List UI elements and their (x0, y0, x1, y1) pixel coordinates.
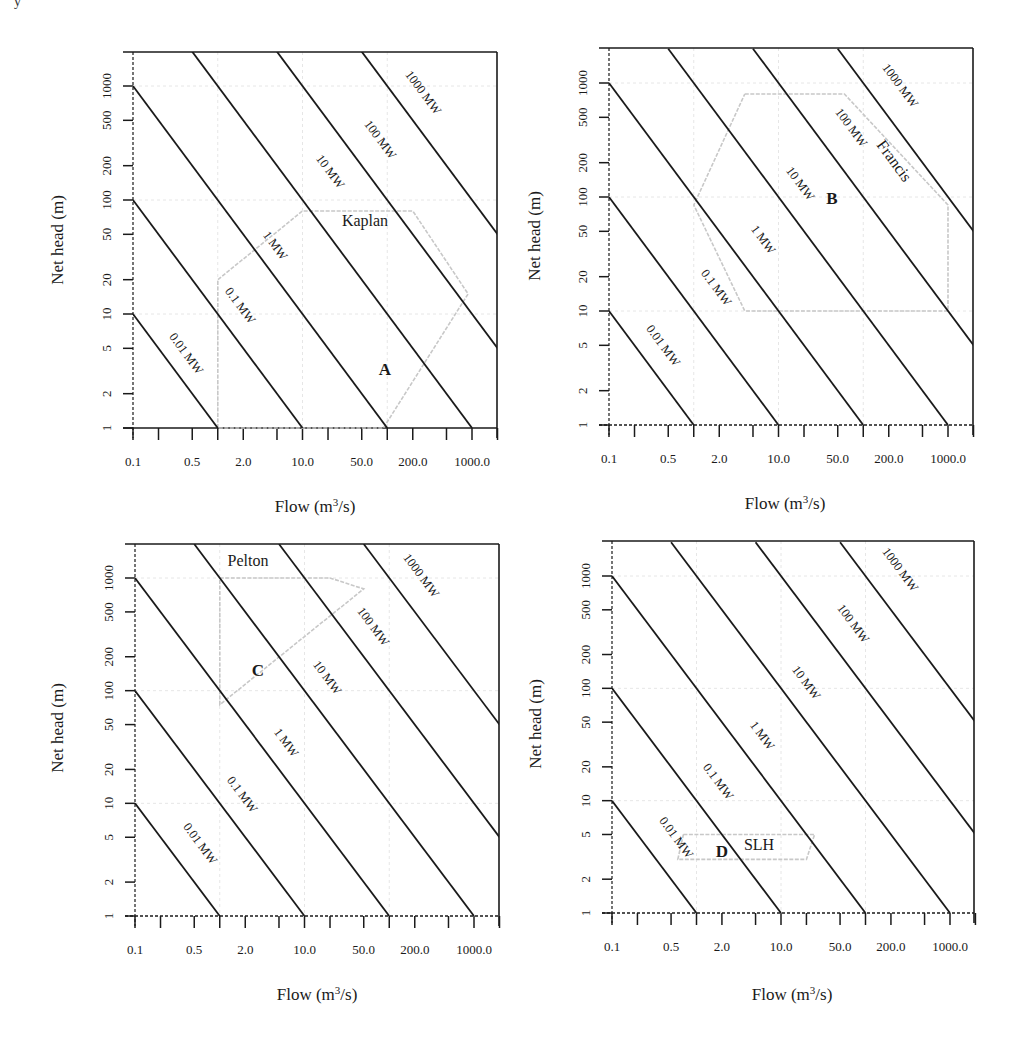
power-line-label: 1000 MW (400, 551, 442, 600)
x-tick-label: 200.0 (398, 454, 427, 469)
power-line-label: 0.01 MW (180, 820, 220, 867)
panel-letter: B (826, 189, 837, 208)
y-tick-label: 20 (575, 270, 590, 283)
x-tick-label: 0.1 (125, 454, 141, 469)
power-line-label: 0.1 MW (698, 267, 734, 309)
y-tick-label: 500 (575, 108, 590, 128)
y-tick-label: 5 (575, 342, 590, 349)
panel-letter: C (252, 661, 264, 680)
y-tick-label: 100 (578, 679, 593, 699)
x-tick-label: 50.0 (829, 939, 852, 954)
power-line-label: 0.1 MW (700, 761, 736, 803)
panel-c: 12510205010020050010000.10.52.010.050.02… (48, 544, 500, 1004)
panel-letter: A (379, 360, 392, 379)
y-tick-label: 5 (578, 831, 593, 838)
x-axis-title: Flow (m3/s) (745, 493, 826, 513)
y-tick-label: 10 (99, 308, 114, 321)
y-tick-label: 1 (575, 422, 590, 429)
x-axis-title: Flow (m3/s) (752, 984, 833, 1004)
y-tick-label: 500 (578, 600, 593, 620)
x-tick-label: 0.5 (184, 454, 200, 469)
x-tick-label: 0.5 (660, 451, 676, 466)
x-tick-label: 0.5 (663, 939, 679, 954)
y-tick-label: 10 (101, 797, 116, 810)
power-line-label: 100 MW (834, 601, 872, 645)
y-tick-label: 1000 (578, 563, 593, 589)
turbine-region-francis (694, 94, 948, 311)
y-tick-label: 100 (101, 681, 116, 701)
y-tick-label: 5 (99, 345, 114, 352)
y-tick-label: 200 (101, 647, 116, 667)
x-tick-label: 200.0 (876, 939, 905, 954)
x-tick-label: 10.0 (293, 942, 316, 957)
power-line-10-mw (671, 542, 950, 913)
y-tick-label: 2 (575, 387, 590, 394)
region-name-label: Kaplan (342, 212, 388, 230)
corner-mark: y (14, 0, 21, 10)
y-tick-label: 1000 (101, 565, 116, 591)
power-line-label: 1 MW (747, 718, 778, 752)
power-lines (135, 544, 500, 916)
x-tick-label: 1000.0 (930, 451, 966, 466)
power-lines (609, 49, 974, 425)
y-tick-label: 200 (99, 156, 114, 176)
y-tick-label: 50 (578, 716, 593, 729)
power-line-label: 1000 MW (879, 545, 921, 594)
x-tick-label: 1000.0 (454, 454, 490, 469)
power-line-label: 1 MW (260, 228, 291, 262)
x-tick-label: 1000.0 (932, 939, 968, 954)
x-tick-label: 10.0 (767, 451, 790, 466)
y-tick-label: 500 (99, 111, 114, 130)
y-tick-label: 20 (99, 273, 114, 286)
panel-d: 12510205010020050010000.10.52.010.050.02… (526, 541, 975, 1004)
x-tick-label: 0.1 (604, 939, 620, 954)
y-tick-label: 10 (575, 305, 590, 318)
power-line-label: 0.01 MW (656, 814, 696, 861)
y-tick-label: 1 (578, 910, 593, 917)
panel-letter: D (716, 842, 728, 861)
x-tick-label: 50.0 (352, 942, 375, 957)
power-line-label: 100 MW (832, 105, 870, 149)
power-line-label: 10 MW (789, 663, 823, 702)
y-axis-title: Net head (m) (48, 683, 67, 773)
chart-canvas: 12510205010020050010000.10.52.010.050.02… (0, 0, 1025, 1050)
region-name-label: SLH (744, 836, 775, 853)
power-line-label: 10 MW (313, 152, 347, 191)
x-tick-label: 2.0 (235, 454, 251, 469)
power-line-label: 1000 MW (879, 61, 921, 110)
x-axis-title: Flow (m3/s) (277, 984, 358, 1004)
y-tick-label: 500 (101, 602, 116, 622)
x-axis-title: Flow (m3/s) (275, 496, 356, 516)
y-tick-label: 50 (575, 225, 590, 238)
y-tick-label: 5 (101, 834, 116, 841)
y-tick-label: 1 (101, 913, 116, 920)
x-tick-label: 0.1 (127, 942, 143, 957)
power-line-label: 0.1 MW (222, 285, 258, 327)
power-line-label: 1000 MW (402, 68, 444, 117)
y-tick-label: 2 (101, 879, 116, 886)
y-tick-label: 100 (99, 190, 114, 210)
y-tick-label: 50 (99, 228, 114, 241)
power-line-label: 100 MW (361, 117, 399, 161)
x-tick-label: 2.0 (711, 451, 727, 466)
x-tick-label: 1000.0 (456, 942, 492, 957)
y-tick-label: 1 (99, 425, 114, 432)
figure: y 12510205010020050010000.10.52.010.050.… (0, 0, 1025, 1050)
y-axis-title: Net head (m) (526, 679, 545, 769)
x-tick-label: 50.0 (826, 451, 849, 466)
y-tick-label: 100 (575, 187, 590, 207)
y-axis-title: Net head (m) (48, 195, 67, 285)
y-tick-label: 2 (578, 876, 593, 883)
power-line-label: 0.1 MW (224, 774, 260, 816)
power-lines (612, 542, 975, 913)
y-tick-label: 10 (578, 794, 593, 807)
y-axis-title: Net head (m) (525, 191, 544, 281)
power-line-1-mw (135, 578, 389, 916)
power-line-1-mw (609, 83, 863, 425)
power-line-label: 10 MW (783, 164, 817, 203)
x-tick-label: 200.0 (400, 942, 429, 957)
y-tick-label: 200 (578, 645, 593, 665)
power-line-10-mw (194, 544, 474, 916)
y-tick-label: 200 (575, 153, 590, 173)
x-tick-label: 0.1 (601, 451, 617, 466)
